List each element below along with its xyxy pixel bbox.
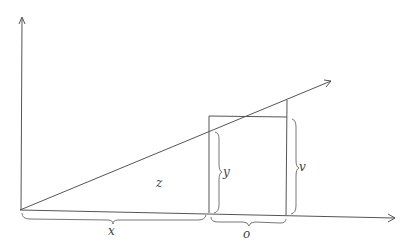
rectangle — [209, 100, 287, 215]
brace-v — [291, 119, 299, 214]
brace-y — [214, 132, 222, 213]
label-v: v — [299, 161, 306, 173]
label-z: z — [156, 177, 162, 189]
brace-o — [211, 217, 286, 226]
label-o: o — [243, 228, 250, 240]
label-y: y — [223, 166, 230, 178]
vertical-axis — [19, 17, 25, 210]
diagonal-ray — [20, 80, 331, 210]
label-x: x — [108, 225, 115, 237]
diagram-canvas — [0, 0, 411, 250]
brace-x — [22, 213, 206, 224]
horizontal-axis — [20, 210, 395, 222]
